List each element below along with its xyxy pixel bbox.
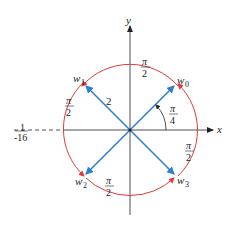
root-label-w0: w 0 [177, 74, 189, 89]
svg-text:w: w [75, 175, 83, 187]
real-point-label: 1 -16 [14, 122, 28, 143]
svg-text:w: w [73, 72, 81, 84]
y-axis-label: y [125, 14, 131, 26]
radius-label: 2 [106, 95, 112, 107]
svg-text:2: 2 [66, 107, 71, 118]
svg-text:π: π [106, 175, 112, 186]
svg-text:4: 4 [170, 115, 175, 126]
arc-label-right: π 2 [185, 140, 194, 163]
svg-text:2: 2 [106, 187, 111, 198]
vector-w3 [130, 130, 174, 174]
angle-arc [156, 105, 166, 130]
roots-diagram: x y 1 -16 π 4 2 π 2 π [0, 0, 237, 229]
svg-text:2: 2 [83, 181, 87, 190]
vector-w2 [86, 130, 130, 174]
root-label-w3: w 3 [177, 174, 189, 189]
vector-w1 [86, 86, 130, 130]
svg-text:π: π [142, 56, 148, 67]
svg-text:w: w [177, 74, 185, 86]
svg-text:π: π [186, 140, 192, 151]
svg-text:2: 2 [186, 152, 191, 163]
axes: x y [14, 14, 222, 215]
arc-label-bottom: π 2 [105, 175, 114, 198]
origin-dot [129, 129, 132, 132]
root-label-w2: w 2 [75, 175, 87, 190]
svg-text:π: π [170, 103, 176, 114]
svg-text:0: 0 [185, 80, 189, 89]
vector-w0 [130, 86, 174, 130]
svg-text:1: 1 [81, 78, 85, 87]
angle-label: π 4 [169, 103, 178, 126]
svg-text:-16: -16 [14, 132, 27, 143]
svg-text:3: 3 [185, 180, 189, 189]
arc-label-left: π 2 [65, 95, 74, 118]
x-axis-label: x [216, 123, 222, 135]
svg-text:w: w [177, 174, 185, 186]
root-label-w1: w 1 [73, 72, 85, 87]
svg-text:π: π [66, 95, 72, 106]
svg-text:2: 2 [142, 68, 147, 79]
